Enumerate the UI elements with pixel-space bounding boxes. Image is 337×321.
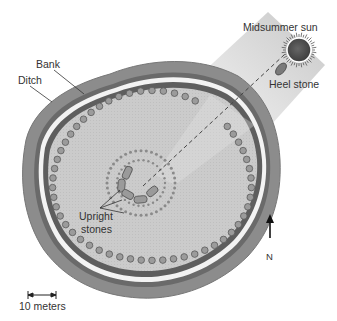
ditch-leader [30,86,52,102]
diagram-canvas [0,0,337,321]
north-label: N [266,251,273,263]
bank-label: Bank [36,58,60,70]
heel-stone-label: Heel stone [269,78,319,90]
midsummer-sun-icon [282,33,317,68]
midsummer-sun-label: Midsummer sun [243,21,318,33]
stonehenge-diagram: Midsummer sun Heel stone Bank Ditch Upri… [0,0,337,321]
scale-bar-icon [28,291,56,299]
upright-stones-label-line2: stones [81,223,112,235]
ditch-label: Ditch [18,74,42,86]
upright-stones-label-line1: Upright [79,210,113,222]
scale-label: 10 meters [19,300,66,312]
